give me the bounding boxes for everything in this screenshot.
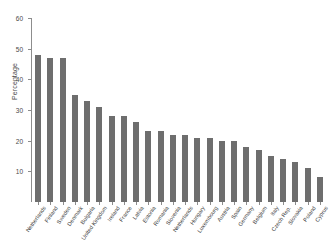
bar bbox=[231, 141, 237, 202]
y-tick-label: 30 bbox=[16, 107, 23, 114]
bar bbox=[60, 58, 66, 202]
bar-slot bbox=[277, 18, 289, 202]
bar-chart: Percentage 102030405060 NetherlandsFinla… bbox=[0, 0, 332, 252]
y-tick: 40 bbox=[28, 79, 31, 80]
bar-slot bbox=[93, 18, 105, 202]
bar-slot bbox=[289, 18, 301, 202]
bar-slot bbox=[130, 18, 142, 202]
bar-slot bbox=[142, 18, 154, 202]
bar bbox=[256, 150, 262, 202]
bar bbox=[72, 95, 78, 202]
bar-slot bbox=[191, 18, 203, 202]
bar-slot bbox=[240, 18, 252, 202]
bar bbox=[207, 138, 213, 202]
bar-slot bbox=[302, 18, 314, 202]
y-tick: 20 bbox=[28, 141, 31, 142]
y-tick: 30 bbox=[28, 110, 31, 111]
x-axis-labels: NetherlandsFinlandSwedenDenmarkBulgariaU… bbox=[32, 205, 326, 252]
bar bbox=[47, 58, 53, 202]
bar-slot bbox=[44, 18, 56, 202]
bar-slot bbox=[118, 18, 130, 202]
bar bbox=[145, 131, 151, 202]
bar-slot bbox=[57, 18, 69, 202]
bar bbox=[194, 138, 200, 202]
bar bbox=[158, 131, 164, 202]
bar bbox=[170, 135, 176, 202]
bar bbox=[133, 122, 139, 202]
bar bbox=[292, 162, 298, 202]
bar bbox=[243, 147, 249, 202]
bar-slot bbox=[314, 18, 326, 202]
y-tick: 10 bbox=[28, 171, 31, 172]
bar-slot bbox=[216, 18, 228, 202]
bar-slot bbox=[179, 18, 191, 202]
y-tick: 60 bbox=[28, 18, 31, 19]
y-tick: 50 bbox=[28, 49, 31, 50]
x-tick-label: Italy bbox=[269, 205, 280, 217]
bar bbox=[182, 135, 188, 202]
y-tick-label: 40 bbox=[16, 76, 23, 83]
y-tick-label: 60 bbox=[16, 15, 23, 22]
bar-slot bbox=[167, 18, 179, 202]
bar bbox=[280, 159, 286, 202]
bar bbox=[96, 107, 102, 202]
bar-slot bbox=[106, 18, 118, 202]
bar-series bbox=[32, 18, 325, 202]
bar-slot bbox=[204, 18, 216, 202]
bar bbox=[268, 156, 274, 202]
bar bbox=[219, 141, 225, 202]
y-tick-label: 20 bbox=[16, 137, 23, 144]
bar-slot bbox=[253, 18, 265, 202]
bar bbox=[305, 168, 311, 202]
bar bbox=[317, 177, 323, 202]
bar-slot bbox=[228, 18, 240, 202]
y-tick-label: 50 bbox=[16, 45, 23, 52]
bar bbox=[121, 116, 127, 202]
bar bbox=[109, 116, 115, 202]
bar-slot bbox=[32, 18, 44, 202]
plot-area: 102030405060 bbox=[31, 18, 325, 202]
bar bbox=[35, 55, 41, 202]
bar-slot bbox=[69, 18, 81, 202]
bar bbox=[84, 101, 90, 202]
bar-slot bbox=[81, 18, 93, 202]
bar-slot bbox=[265, 18, 277, 202]
bar-slot bbox=[155, 18, 167, 202]
y-tick-label: 10 bbox=[16, 168, 23, 175]
